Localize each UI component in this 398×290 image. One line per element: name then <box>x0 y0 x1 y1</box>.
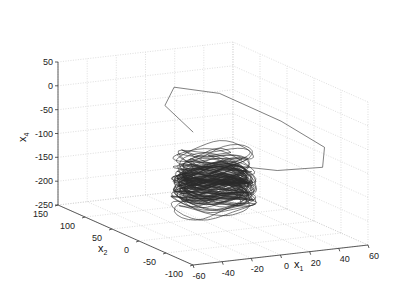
x4-tick-label: -200 <box>35 176 53 186</box>
x4-tick-label: 50 <box>43 57 53 67</box>
3d-line-plot: -60-40-200204060-100-50050100150-250-200… <box>0 0 398 290</box>
x1-tick-label: 40 <box>340 254 350 264</box>
trajectory-curve <box>165 87 325 220</box>
x2-tick-label: -100 <box>165 269 183 279</box>
x1-tick-label: 0 <box>284 261 289 271</box>
x1-tick-label: 20 <box>311 258 321 268</box>
x4-tick-label: -250 <box>35 200 53 210</box>
axis-labels: x1 x2 x4 <box>16 133 304 273</box>
x2-tick-label: 100 <box>60 221 75 231</box>
x1-tick-label: -60 <box>192 271 205 281</box>
x4-tick-label: -150 <box>35 152 53 162</box>
x4-tick-label: -100 <box>35 129 53 139</box>
x2-tick-label: 150 <box>33 209 48 219</box>
x1-axis-label: x1 <box>294 258 304 272</box>
x1-tick-label: 60 <box>369 251 379 261</box>
x1-tick-label: -40 <box>222 268 235 278</box>
trajectory-path <box>165 87 325 220</box>
x4-axis-label: x4 <box>16 133 30 143</box>
x2-tick-label: 0 <box>124 245 129 255</box>
x2-tick-label: -50 <box>143 257 156 267</box>
x1-tick-label: -20 <box>251 264 264 274</box>
x4-tick-label: -50 <box>40 105 53 115</box>
x2-axis-label: x2 <box>98 242 108 256</box>
x4-tick-label: 0 <box>48 81 53 91</box>
